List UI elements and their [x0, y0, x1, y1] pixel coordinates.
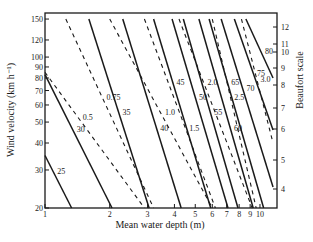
x-tick-label: 1	[43, 210, 47, 219]
x-tick-label: 9	[248, 210, 252, 219]
line-label: 50	[199, 93, 207, 102]
beaufort-tick-label: 7	[281, 104, 285, 113]
line-label: 25	[57, 167, 65, 176]
line-label: 45	[177, 78, 185, 87]
line-label: 0.5	[83, 113, 93, 122]
beaufort-tick-label: 9	[281, 64, 285, 73]
y-tick-label: 150	[31, 15, 43, 24]
plot-lines	[45, 19, 273, 208]
line-label: 65	[231, 78, 239, 87]
y-tick-label: 50	[35, 118, 43, 127]
line-solid-30	[45, 75, 112, 208]
line-label: 30	[77, 125, 85, 134]
line-solid-45	[154, 19, 211, 208]
line-label: 1.0	[165, 108, 175, 117]
x-tick-label: 3	[146, 210, 150, 219]
x-tick-label: 8	[237, 210, 241, 219]
y-tick-label: 70	[35, 87, 43, 96]
line-solid-70	[221, 19, 273, 187]
line-label: 2.0	[208, 78, 218, 87]
x-tick-label: 10	[256, 210, 264, 219]
line-label: 60	[234, 124, 242, 133]
beaufort-tick-label: 11	[281, 40, 289, 49]
y-tick-label: 100	[31, 53, 43, 62]
y-tick-label: 30	[35, 166, 43, 175]
beaufort-tick-label: 8	[281, 81, 285, 90]
line-solid-25	[45, 156, 72, 208]
line-solid-60	[199, 19, 253, 208]
line-label: 55	[214, 108, 222, 117]
line-dashed-0.5	[45, 72, 144, 208]
line-label: 0.75	[107, 93, 121, 102]
x-tick-label: 5	[193, 210, 197, 219]
beaufort-tick-label: 5	[281, 156, 285, 165]
beaufort-tick-label: 12	[281, 23, 289, 32]
line-label: 3.0	[261, 75, 271, 84]
beaufort-axis-ticks: 456789101112	[273, 23, 289, 194]
y-axis-title: Wind velocity (km h⁻¹)	[5, 63, 17, 157]
chart: 12345678910 2030405060708090100120150 45…	[0, 0, 313, 242]
x-tick-label: 6	[210, 210, 214, 219]
beaufort-tick-label: 6	[281, 125, 285, 134]
y-axis-ticks: 2030405060708090100120150	[31, 15, 49, 213]
y-tick-label: 60	[35, 101, 43, 110]
line-dashed-0.75	[66, 19, 154, 208]
x-tick-label: 2	[108, 210, 112, 219]
y-tick-label: 90	[35, 63, 43, 72]
y-tick-label: 20	[35, 204, 43, 213]
beaufort-tick-label: 10	[281, 48, 289, 57]
line-label: 1.5	[189, 124, 199, 133]
x-axis-ticks: 12345678910	[43, 204, 264, 219]
line-label: 2.5	[234, 93, 244, 102]
beaufort-tick-label: 4	[281, 185, 285, 194]
x-tick-label: 4	[172, 210, 176, 219]
y-tick-label: 40	[35, 139, 43, 148]
line-label: 70	[246, 84, 254, 93]
y-tick-label: 120	[31, 36, 43, 45]
line-label: 35	[123, 108, 131, 117]
x-tick-label: 7	[225, 210, 229, 219]
line-label: 80	[265, 47, 273, 56]
beaufort-axis-title: Beaufort scale	[294, 51, 305, 109]
y-tick-label: 80	[35, 74, 43, 83]
line-label: 40	[160, 124, 168, 133]
x-axis-title: Mean water depth (m)	[115, 219, 204, 231]
